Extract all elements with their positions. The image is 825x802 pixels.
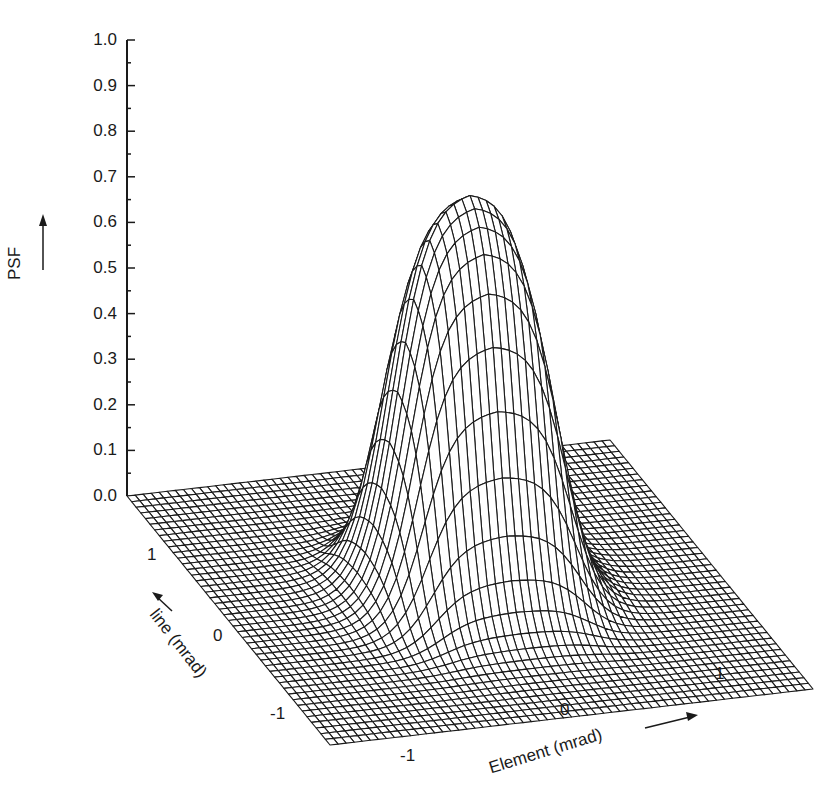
z-tick-label: 0.6 (77, 213, 117, 230)
z-tick-label: 0.9 (77, 77, 117, 94)
z-axis (127, 40, 135, 496)
line-tick-neg1: -1 (270, 705, 285, 722)
element-tick-0: 0 (560, 701, 569, 718)
element-tick-neg1: -1 (400, 747, 415, 764)
z-tick-label: 0.1 (77, 441, 117, 458)
z-tick-label: 1.0 (77, 31, 117, 48)
z-tick-label: 0.0 (77, 487, 117, 504)
line-tick-0: 0 (213, 627, 222, 644)
psf-surface-plot (0, 0, 825, 802)
z-tick-label: 0.4 (77, 305, 117, 322)
surface-mesh (127, 196, 813, 745)
element-tick-1: 1 (715, 665, 724, 682)
line-tick-1: 1 (147, 546, 156, 563)
z-tick-label: 0.8 (77, 122, 117, 139)
z-axis-label-text: PSF (5, 247, 24, 280)
z-tick-label: 0.5 (77, 259, 117, 276)
z-axis-label: PSF (6, 247, 23, 280)
z-tick-label: 0.3 (77, 350, 117, 367)
z-tick-label: 0.7 (77, 168, 117, 185)
z-tick-label: 0.2 (77, 396, 117, 413)
